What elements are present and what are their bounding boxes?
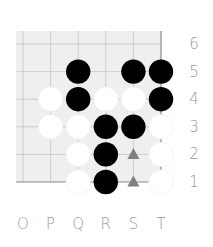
column-label-T: T xyxy=(156,217,165,232)
row-label-6: 6 xyxy=(189,37,199,52)
row-label-1: 1 xyxy=(189,175,199,190)
column-label-R: R xyxy=(101,217,111,232)
white-stone-Q2[interactable] xyxy=(66,142,90,166)
row-label-2: 2 xyxy=(189,147,199,162)
white-stone-S4[interactable] xyxy=(121,87,145,111)
black-stone-Q5[interactable] xyxy=(66,59,90,83)
white-stone-Q1[interactable] xyxy=(66,170,90,194)
white-stone-Q3[interactable] xyxy=(66,115,90,139)
column-label-S: S xyxy=(129,217,139,232)
black-stone-S5[interactable] xyxy=(121,59,145,83)
white-stone-R4[interactable] xyxy=(94,87,118,111)
column-label-Q: Q xyxy=(72,217,84,232)
row-label-5: 5 xyxy=(189,64,199,79)
black-stone-S3[interactable] xyxy=(121,115,145,139)
white-stone-T3[interactable] xyxy=(149,115,173,139)
white-stone-T2[interactable] xyxy=(149,142,173,166)
black-stone-T5[interactable] xyxy=(149,59,173,83)
black-stone-R1[interactable] xyxy=(94,170,118,194)
row-label-4: 4 xyxy=(189,92,199,107)
go-board[interactable] xyxy=(0,0,213,247)
black-stone-T4[interactable] xyxy=(149,87,173,111)
white-stone-P3[interactable] xyxy=(38,115,62,139)
board-canvas[interactable] xyxy=(0,0,213,247)
white-stone-P4[interactable] xyxy=(38,87,62,111)
black-stone-Q4[interactable] xyxy=(66,87,90,111)
black-stone-R3[interactable] xyxy=(94,115,118,139)
black-stone-R2[interactable] xyxy=(94,142,118,166)
column-label-P: P xyxy=(46,217,55,232)
row-label-3: 3 xyxy=(189,119,199,134)
column-label-O: O xyxy=(17,217,29,232)
white-stone-T1[interactable] xyxy=(149,170,173,194)
